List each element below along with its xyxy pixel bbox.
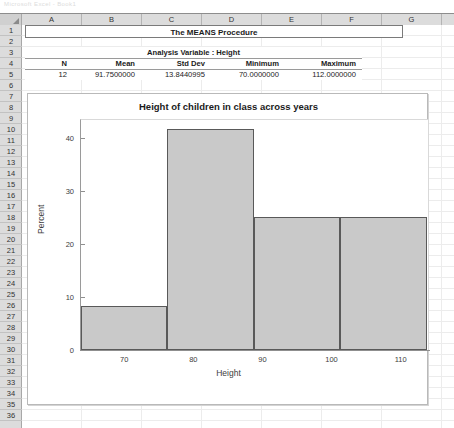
cell-maximum: 112.0000000 [285, 69, 362, 80]
row-header-22[interactable]: 22 [0, 256, 22, 267]
column-header-g[interactable]: G [382, 14, 442, 25]
bar-0[interactable] [81, 306, 167, 350]
chart-title: Height of children in class across years [28, 101, 429, 112]
row-header-25[interactable]: 25 [0, 289, 22, 300]
row-header-27[interactable]: 27 [0, 311, 22, 322]
y-tick-label: 20 [66, 240, 74, 249]
col-header-n: N [25, 58, 73, 69]
row-header-15[interactable]: 15 [0, 179, 22, 190]
column-header-c[interactable]: C [142, 14, 202, 25]
row-header-21[interactable]: 21 [0, 245, 22, 256]
means-procedure-title: The MEANS Procedure [25, 25, 403, 38]
row-header-5[interactable]: 5 [0, 69, 22, 80]
row-header-2[interactable]: 2 [0, 36, 22, 47]
cell-std-dev: 13.8440995 [141, 69, 211, 80]
row-header-32[interactable]: 32 [0, 366, 22, 377]
row-header-13[interactable]: 13 [0, 157, 22, 168]
row-header-31[interactable]: 31 [0, 355, 22, 366]
row-header-28[interactable]: 28 [0, 322, 22, 333]
table-header-row: N Mean Std Dev Minimum Maximum [25, 58, 362, 69]
column-header-f[interactable]: F [322, 14, 382, 25]
y-tick-mark [81, 350, 85, 351]
y-tick-label: 40 [66, 134, 74, 143]
x-tick-label: 90 [258, 355, 266, 364]
row-header-4[interactable]: 4 [0, 58, 22, 69]
x-tick-label: 70 [120, 355, 128, 364]
cell-minimum: 70.0000000 [211, 69, 285, 80]
row-header-19[interactable]: 19 [0, 223, 22, 234]
plot-area: 010203040 708090100110 [80, 119, 429, 350]
row-header-9[interactable]: 9 [0, 113, 22, 124]
row-header-23[interactable]: 23 [0, 267, 22, 278]
row-header-8[interactable]: 8 [0, 102, 22, 113]
table-row: 12 91.7500000 13.8440995 70.0000000 112.… [25, 69, 362, 80]
column-header-e[interactable]: E [262, 14, 322, 25]
row-header-35[interactable]: 35 [0, 399, 22, 410]
row-header-12[interactable]: 12 [0, 146, 22, 157]
formula-bar-strip: Microsoft Excel - Book1 [0, 0, 454, 14]
row-header-10[interactable]: 10 [0, 124, 22, 135]
row-header-16[interactable]: 16 [0, 190, 22, 201]
y-tick-label: 10 [66, 293, 74, 302]
col-header-maximum: Maximum [285, 58, 362, 69]
x-axis-label: Height [28, 368, 429, 378]
row-header-30[interactable]: 30 [0, 344, 22, 355]
col-header-minimum: Minimum [211, 58, 285, 69]
row-header-11[interactable]: 11 [0, 135, 22, 146]
analysis-summary-table: Analysis Variable : Height N Mean Std De… [25, 47, 362, 80]
select-all-triangle-icon [13, 18, 19, 24]
row-header-36[interactable]: 36 [0, 410, 22, 421]
column-header-b[interactable]: B [82, 14, 142, 25]
select-all-button[interactable] [0, 14, 22, 25]
row-header-18[interactable]: 18 [0, 212, 22, 223]
column-header-h[interactable]: H [442, 14, 454, 25]
column-header-a[interactable]: A [22, 14, 82, 25]
row-header-1[interactable]: 1 [0, 25, 22, 36]
row-header-17[interactable]: 17 [0, 201, 22, 212]
y-tick-mark [81, 191, 85, 192]
row-header-34[interactable]: 34 [0, 388, 22, 399]
analysis-variable-caption: Analysis Variable : Height [25, 47, 362, 58]
y-tick-mark [81, 297, 85, 298]
y-axis-label: Percent [36, 205, 46, 234]
bar-3[interactable] [340, 217, 426, 350]
row-header-26[interactable]: 26 [0, 300, 22, 311]
row-header-3[interactable]: 3 [0, 47, 22, 58]
y-tick-label: 0 [70, 346, 74, 355]
column-header-bar: ABCDEFGH [0, 14, 454, 25]
row-header-20[interactable]: 20 [0, 234, 22, 245]
y-tick-mark [81, 138, 85, 139]
x-axis-line [80, 350, 430, 351]
col-header-mean: Mean [73, 58, 141, 69]
x-tick-label: 80 [189, 355, 197, 364]
row-header-bar: 1234567891011121314151617181920212223242… [0, 25, 22, 428]
formula-bar-ghost-text: Microsoft Excel - Book1 [4, 1, 76, 7]
row-header-6[interactable]: 6 [0, 80, 22, 91]
row-header-33[interactable]: 33 [0, 377, 22, 388]
row-header-29[interactable]: 29 [0, 333, 22, 344]
excel-window: Microsoft Excel - Book1 ABCDEFGH 1234567… [0, 0, 454, 428]
bar-2[interactable] [254, 217, 340, 350]
y-tick-mark [81, 244, 85, 245]
row-header-24[interactable]: 24 [0, 278, 22, 289]
cell-n: 12 [25, 69, 73, 80]
column-header-d[interactable]: D [202, 14, 262, 25]
x-tick-label: 100 [325, 355, 338, 364]
bar-series [81, 119, 430, 350]
bar-1[interactable] [167, 129, 253, 350]
row-header-14[interactable]: 14 [0, 168, 22, 179]
histogram-chart[interactable]: Height of children in class across years… [27, 93, 428, 405]
table-caption-row: Analysis Variable : Height [25, 47, 362, 58]
col-header-std-dev: Std Dev [141, 58, 211, 69]
x-tick-label: 110 [395, 355, 407, 364]
row-header-7[interactable]: 7 [0, 91, 22, 102]
cell-mean: 91.7500000 [73, 69, 141, 80]
y-tick-label: 30 [66, 187, 74, 196]
